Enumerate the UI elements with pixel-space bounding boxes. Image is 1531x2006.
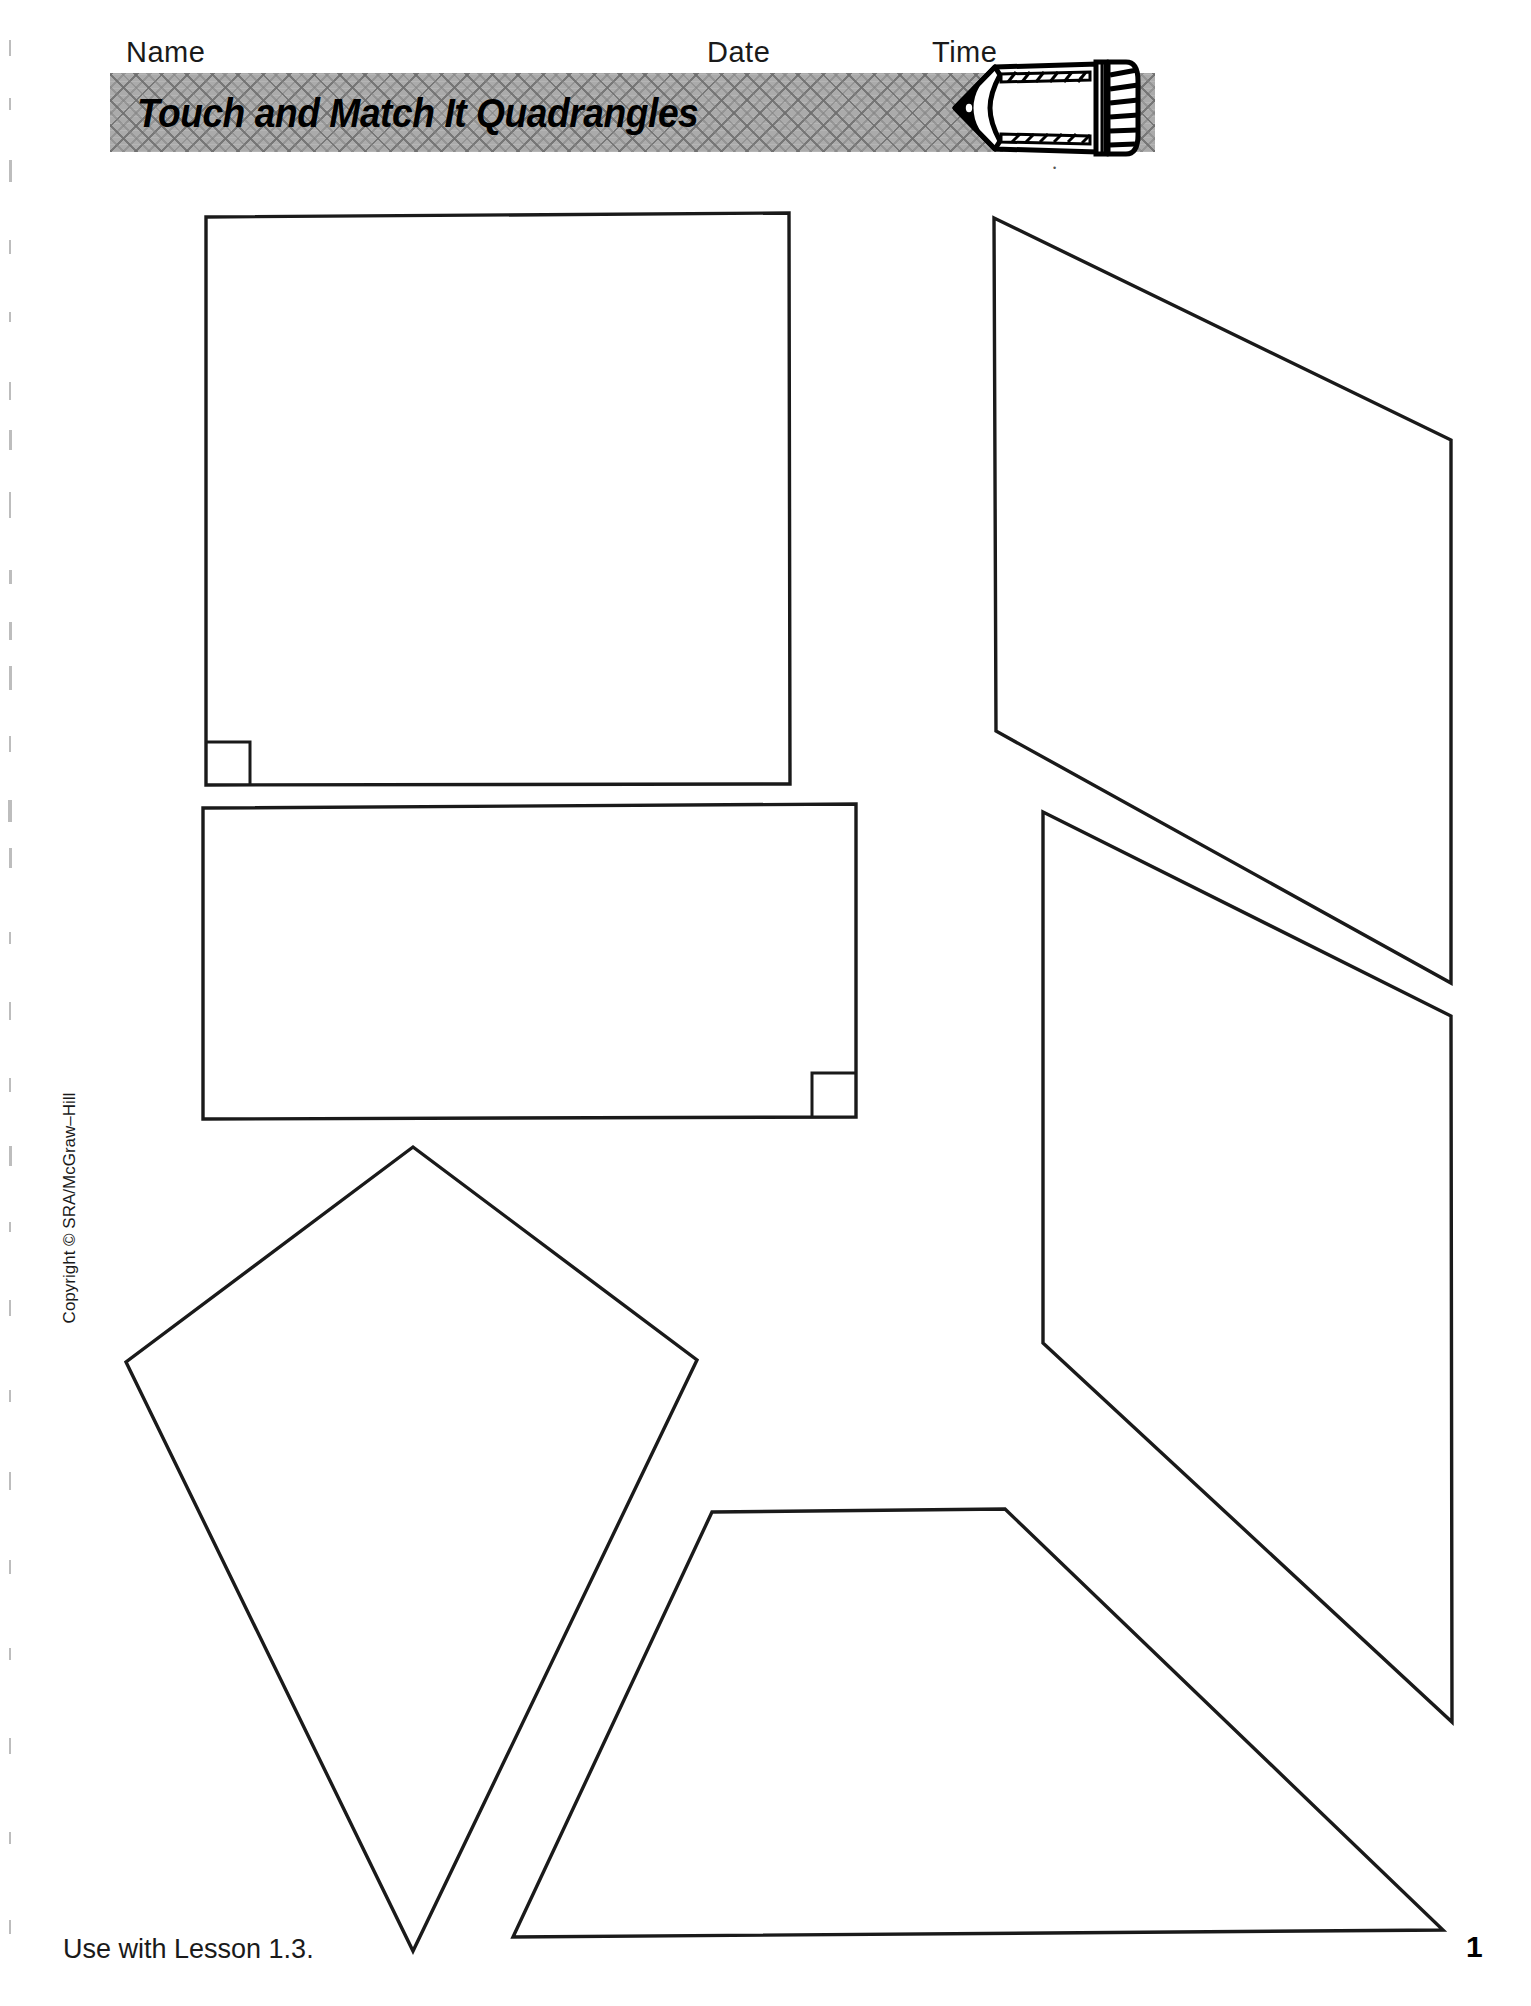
lesson-reference: Use with Lesson 1.3. <box>63 1934 314 1965</box>
square-quadrangle <box>206 213 790 785</box>
copyright-notice: Copyright © SRA/McGraw–Hill <box>60 1078 80 1338</box>
worksheet-page: Name Date Time Touch and Match It Quadra… <box>0 0 1531 2006</box>
page-number: 1 <box>1466 1930 1483 1964</box>
rectangle-quadrangle <box>203 804 856 1119</box>
quadrangles-figure <box>0 0 1531 2006</box>
